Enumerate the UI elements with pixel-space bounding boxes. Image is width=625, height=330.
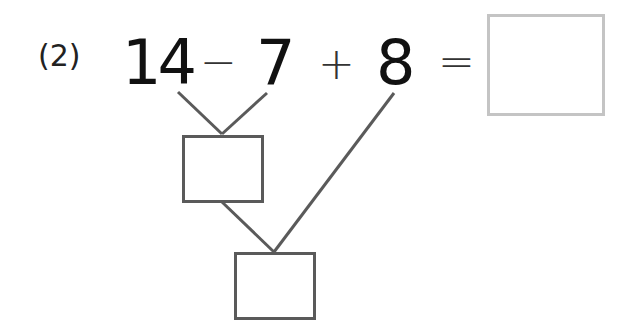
intermediate-result-box[interactable]: [182, 135, 264, 203]
equals-sign: =: [438, 40, 475, 84]
final-result-box[interactable]: [234, 252, 316, 320]
operand-8: 8: [376, 32, 415, 94]
answer-box[interactable]: [487, 14, 605, 116]
operand-14: 14: [122, 32, 193, 94]
problem-number: (2): [38, 38, 81, 73]
operand-7: 7: [256, 32, 295, 94]
minus-sign: −: [200, 40, 237, 84]
plus-sign: +: [318, 42, 355, 86]
